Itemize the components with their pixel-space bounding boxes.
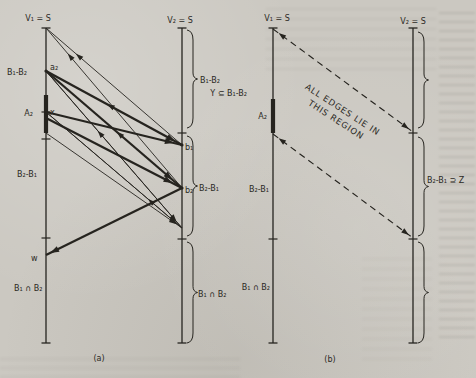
label-a-b2b1-left: B₂-B₁ <box>17 170 37 179</box>
brace-a-brace-b1b2 <box>187 30 198 128</box>
label-a-v1-title: V₁ = S <box>25 14 51 23</box>
label-a-b1nb2-right: B₁ ∩ B₂ <box>198 290 226 299</box>
label-a-b2b1-right: B₂-B₁ <box>199 184 219 193</box>
brace-b-brace-b2b1z <box>418 137 429 236</box>
arrowhead <box>279 138 287 145</box>
label-b-b1nb2-left: B₁ ∩ B₂ <box>242 283 270 292</box>
scanned-page: V₁ = SV₂ = SB₁-B₂a₂A₂xB₂-B₁wB₁ ∩ B₂B₁-B₂… <box>0 0 476 378</box>
label-a-b1nb2-left: B₁ ∩ B₂ <box>14 284 42 293</box>
arrowhead <box>50 246 59 253</box>
label-a-caption: (a) <box>93 354 104 363</box>
edge-dashed <box>273 29 413 132</box>
edge-thick <box>46 188 182 255</box>
brace-a-brace-b1nb2 <box>187 242 198 343</box>
node-dot <box>180 186 183 189</box>
edge-thin <box>46 133 182 228</box>
node-dot <box>44 69 47 72</box>
brace-b-brace-bottom <box>418 242 429 343</box>
brace-b-brace-top <box>418 32 429 128</box>
label-a-A2: A₂ <box>24 109 33 118</box>
edge-thin <box>46 71 182 228</box>
label-a-node-b2: b₂ <box>185 186 193 195</box>
label-b-caption: (b) <box>324 355 335 364</box>
arrowhead <box>401 122 409 129</box>
label-a-b1b2-right: B₁-B₂ <box>200 76 220 85</box>
label-b-b2b1-left: B₂-B₁ <box>249 185 269 194</box>
arrowhead <box>401 228 409 235</box>
label-a-v2-title: V₂ = S <box>167 16 193 25</box>
label-b-v1-title: V₁ = S <box>264 14 290 23</box>
label-a-node-b1: b₁ <box>185 143 193 152</box>
label-a-b1b2-left: B₁-B₂ <box>7 68 27 77</box>
label-a-node-w: w <box>31 254 38 263</box>
edge-dashed <box>273 134 413 238</box>
label-b-y-subset: Y ⊆ B₁-B₂ <box>209 89 247 98</box>
label-b-b2b1-supset-z: B₂-B₁ ⊇ Z <box>427 176 465 185</box>
node-dot <box>180 143 183 146</box>
label-b-A2: A₂ <box>258 112 267 121</box>
edge-thick <box>46 71 182 145</box>
figure-diagram: V₁ = SV₂ = SB₁-B₂a₂A₂xB₂-B₁wB₁ ∩ B₂B₁-B₂… <box>0 0 476 378</box>
label-b-v2-title: V₂ = S <box>400 17 426 26</box>
label-b-region-note: ALL EDGES LIE INTHIS REGION <box>297 82 382 148</box>
arrowhead <box>279 33 287 40</box>
label-a-node-a2: a₂ <box>50 63 58 72</box>
label-a-node-x: x <box>50 108 55 117</box>
